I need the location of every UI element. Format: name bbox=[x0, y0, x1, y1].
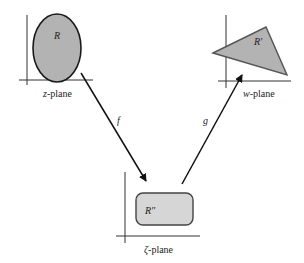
z-plane: R z-plane bbox=[19, 14, 93, 99]
region-R-label: R bbox=[53, 30, 60, 41]
map-g: g bbox=[182, 75, 242, 184]
map-f: f bbox=[81, 73, 146, 181]
conformal-mapping-diagram: R z-plane R′ w-plane R″ ζ-plane f g bbox=[0, 0, 304, 263]
arrow-g bbox=[182, 75, 242, 184]
map-f-label: f bbox=[117, 115, 121, 126]
region-R-prime-triangle bbox=[213, 27, 287, 75]
zeta-plane-label: ζ-plane bbox=[144, 244, 174, 256]
region-R-ellipse bbox=[33, 14, 81, 82]
w-plane-label: w-plane bbox=[243, 88, 275, 99]
z-plane-label: z-plane bbox=[42, 88, 72, 99]
region-R-double-prime-label: R″ bbox=[144, 205, 156, 216]
w-plane: R′ w-plane bbox=[213, 15, 291, 99]
region-R-prime-label: R′ bbox=[253, 36, 263, 47]
map-g-label: g bbox=[203, 115, 208, 126]
zeta-plane: R″ ζ-plane bbox=[116, 172, 200, 256]
arrow-f bbox=[81, 73, 146, 181]
